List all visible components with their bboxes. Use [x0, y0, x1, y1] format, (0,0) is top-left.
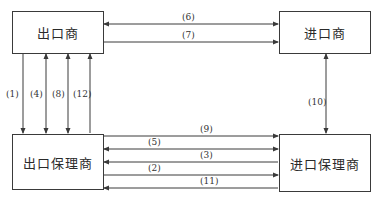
edge-label-5: (5): [148, 137, 161, 147]
edge-label-3: (3): [200, 150, 213, 160]
edge-label-1: (1): [6, 89, 19, 99]
node-importer: 进口商: [279, 11, 371, 54]
node-import-factor: 进口保理商: [279, 134, 371, 192]
node-export-factor-label: 出口保理商: [23, 153, 93, 172]
edge-label-9: (9): [200, 124, 213, 134]
node-exporter-label: 出口商: [37, 23, 79, 42]
edge-label-7: (7): [182, 30, 195, 40]
edge-label-12: (12): [73, 89, 91, 99]
edge-label-10: (10): [308, 97, 326, 107]
node-import-factor-label: 进口保理商: [290, 154, 360, 173]
node-export-factor: 出口保理商: [12, 134, 104, 190]
node-exporter: 出口商: [12, 11, 104, 54]
node-importer-label: 进口商: [304, 23, 346, 42]
edge-label-11: (11): [200, 176, 218, 186]
edge-label-6: (6): [182, 12, 195, 22]
edge-label-2: (2): [148, 163, 161, 173]
edge-label-4: (4): [30, 89, 43, 99]
edge-label-8: (8): [52, 89, 65, 99]
